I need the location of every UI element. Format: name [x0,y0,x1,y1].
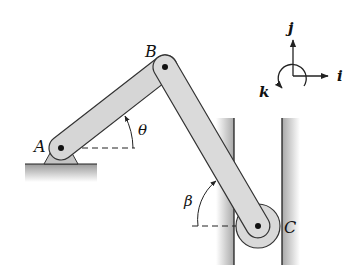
pin-a [58,145,64,151]
label-b: B [144,42,157,61]
axis-label-k: k [259,83,269,101]
axis-label-i: i [337,67,343,85]
bar-bc [149,51,275,243]
beta-arc-icon [198,181,216,226]
axis-label-j: j [285,19,294,37]
theta-arc-icon [125,116,133,148]
label-beta: β [183,192,193,210]
pin-b [162,64,168,70]
mechanism-diagram: A B C θ β j i k [0,0,361,279]
coordinate-frame: j i k [259,19,343,101]
label-c: C [284,218,296,237]
label-a: A [32,137,46,156]
label-theta: θ [138,121,147,139]
pin-c [255,223,261,229]
